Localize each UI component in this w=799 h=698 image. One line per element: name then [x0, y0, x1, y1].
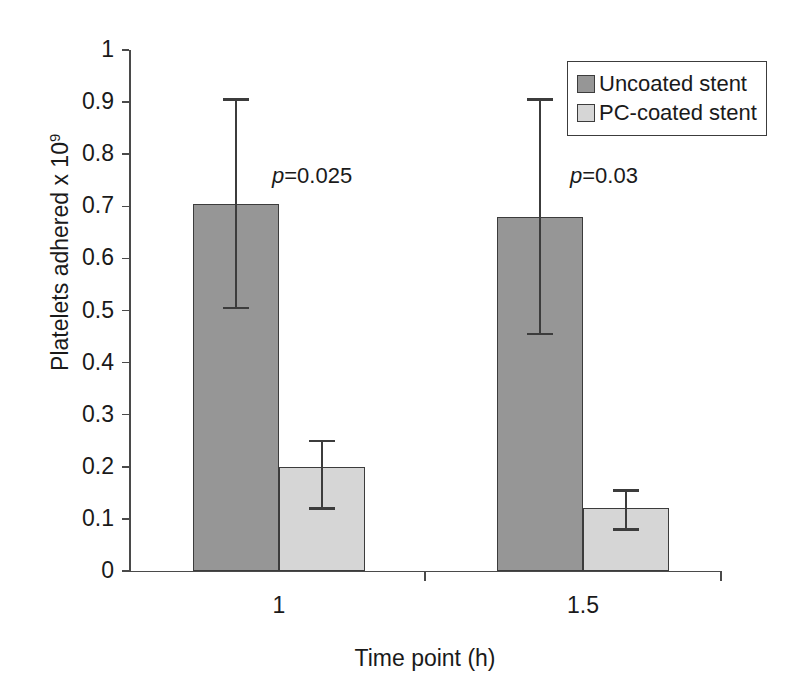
error-bar-stem [321, 441, 323, 509]
y-tick-label-0.6: 0.6 [14, 246, 114, 269]
x-tick-label-1: 1.5 [513, 592, 653, 618]
error-bar-cap-upper [527, 98, 553, 101]
legend: Uncoated stent PC-coated stent [567, 61, 767, 136]
y-axis-title-exponent: 9 [46, 134, 63, 142]
y-axis-tick-0.6 [122, 258, 129, 260]
legend-swatch-uncoated-stent [577, 75, 595, 93]
error-bar-cap-lower [309, 507, 335, 510]
y-axis-line [129, 50, 131, 572]
y-axis-tick-0.1 [122, 518, 129, 520]
y-tick-label-0: 0 [14, 559, 114, 582]
y-axis-tick-0 [122, 570, 129, 572]
x-axis-title: Time point (h) [130, 645, 720, 672]
error-bar-cap-upper [309, 440, 335, 443]
error-bar-stem [539, 99, 541, 333]
x-tick-label-0: 1 [209, 592, 349, 618]
error-bar-stem [235, 99, 237, 307]
annotation-p-value-group-1: p=0.025 [272, 163, 352, 189]
y-axis-tick-0.3 [122, 414, 129, 416]
error-bar-cap-lower [223, 307, 249, 310]
y-tick-label-0.7: 0.7 [14, 194, 114, 217]
x-axis-tick-end [720, 571, 722, 581]
error-bar-cap-lower [527, 333, 553, 336]
x-axis-tick-separator [424, 571, 426, 581]
y-axis-tick-1 [122, 49, 129, 51]
legend-item-uncoated-stent: Uncoated stent [577, 69, 757, 98]
y-tick-label-0.1: 0.1 [14, 507, 114, 530]
y-tick-label-0.9: 0.9 [14, 90, 114, 113]
annotation-p-value-group-2: p=0.03 [570, 163, 638, 189]
p-symbol-0: p [272, 163, 284, 188]
y-axis-tick-0.5 [122, 310, 129, 312]
y-tick-label-0.4: 0.4 [14, 351, 114, 374]
legend-item-pc-coated-stent: PC-coated stent [577, 98, 757, 127]
y-axis-tick-0.8 [122, 153, 129, 155]
y-axis-tick-0.2 [122, 466, 129, 468]
y-tick-label-0.3: 0.3 [14, 403, 114, 426]
y-tick-label-1: 1 [14, 38, 114, 61]
error-bar-cap-lower [613, 528, 639, 531]
p-symbol-1: p [570, 163, 582, 188]
y-tick-label-0.2: 0.2 [14, 455, 114, 478]
y-axis-tick-0.7 [122, 206, 129, 208]
y-axis-tick-0.9 [122, 101, 129, 103]
p-value-text-0: =0.025 [284, 163, 352, 188]
legend-label-uncoated-stent: Uncoated stent [599, 73, 747, 95]
error-bar-cap-upper [223, 98, 249, 101]
y-axis-tick-0.4 [122, 362, 129, 364]
legend-label-pc-coated-stent: PC-coated stent [599, 102, 757, 124]
legend-swatch-pc-coated-stent [577, 104, 595, 122]
bar-chart-figure: Platelets adhered x 109 00.10.20.30.40.5… [0, 0, 799, 698]
y-tick-label-0.5: 0.5 [14, 299, 114, 322]
p-value-text-1: =0.03 [582, 163, 638, 188]
error-bar-stem [625, 490, 627, 529]
error-bar-cap-upper [613, 489, 639, 492]
y-tick-label-0.8: 0.8 [14, 142, 114, 165]
